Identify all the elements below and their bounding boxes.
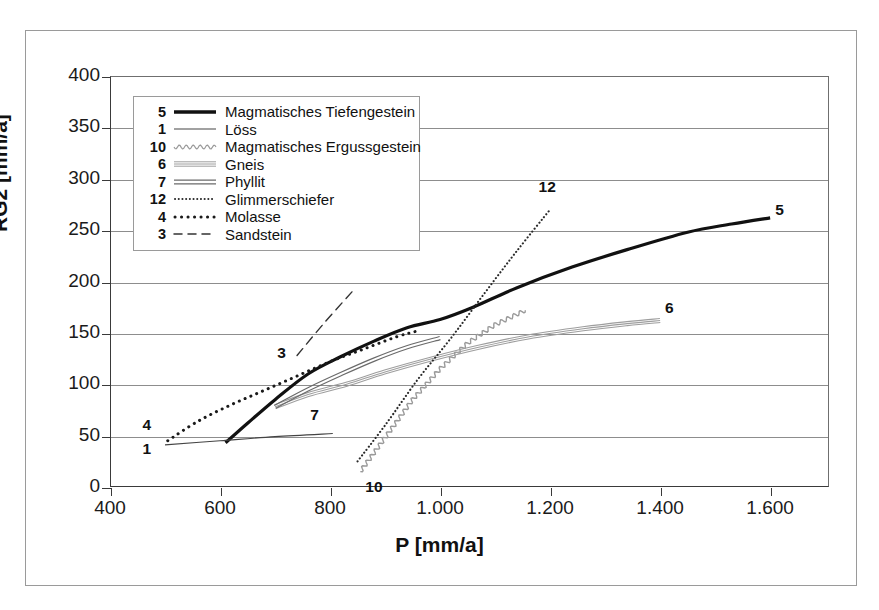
y-axis-tick-label: 200 — [42, 270, 100, 292]
x-axis-tick — [221, 488, 222, 496]
curve-label-6: 6 — [665, 299, 674, 317]
legend-swatch-6 — [173, 157, 217, 171]
legend-swatch-4 — [173, 210, 217, 224]
x-axis-tick — [661, 488, 662, 496]
series-6 — [274, 319, 660, 409]
curve-label-10: 10 — [365, 478, 382, 496]
y-axis-tick-label: 300 — [42, 167, 100, 189]
series-line-1 — [165, 434, 333, 445]
series-1 — [165, 434, 333, 445]
y-axis-tick-label: 0 — [42, 475, 100, 497]
x-axis-tick-label: 1.600 — [730, 497, 810, 519]
legend-key-5: 5 — [140, 104, 173, 120]
x-axis-tick-label: 1.200 — [510, 497, 590, 519]
legend-key-6: 6 — [140, 156, 173, 172]
series-5 — [226, 218, 771, 443]
legend-label-7: Phyllit — [225, 173, 265, 190]
legend-label-10: Magmatisches Ergussgestein — [225, 138, 421, 155]
x-axis-tick-label: 400 — [70, 497, 150, 519]
legend-key-3: 3 — [140, 226, 173, 242]
series-line-3 — [297, 292, 352, 356]
y-axis-tick-label: 50 — [42, 424, 100, 446]
series-line-6 — [276, 323, 661, 409]
y-axis-tick — [102, 488, 111, 489]
x-axis-tick-label: 1.000 — [400, 497, 480, 519]
y-axis-title: RG2 [mm/a] — [0, 114, 12, 232]
legend-key-4: 4 — [140, 209, 173, 225]
x-axis-title: P [mm/a] — [0, 533, 879, 557]
x-axis-tick-label: 1.400 — [620, 497, 700, 519]
legend-item-1: 1Löss — [140, 121, 411, 139]
legend-swatch-1 — [173, 122, 217, 136]
legend-item-7: 7Phyllit — [140, 173, 411, 191]
legend-swatch-7 — [173, 175, 217, 189]
legend-key-10: 10 — [140, 139, 173, 155]
series-line-10 — [360, 310, 525, 471]
legend-line-10 — [174, 145, 216, 149]
x-axis-tick — [551, 488, 552, 496]
series-10 — [360, 310, 525, 471]
legend-key-12: 12 — [140, 191, 173, 207]
y-axis-tick-label: 350 — [42, 115, 100, 137]
x-axis-tick-label: 800 — [290, 497, 370, 519]
legend-label-5: Magmatisches Tiefengestein — [225, 103, 415, 120]
legend-item-4: 4Molasse — [140, 208, 411, 226]
legend-item-10: 10Magmatisches Ergussgestein — [140, 138, 411, 156]
series-3 — [297, 292, 352, 356]
legend-swatch-10 — [173, 140, 217, 154]
curve-label-4: 4 — [143, 416, 152, 434]
x-axis-tick — [111, 488, 112, 496]
legend-label-12: Glimmerschiefer — [225, 191, 334, 208]
legend-label-1: Löss — [225, 121, 257, 138]
legend-item-5: 5Magmatisches Tiefengestein — [140, 103, 411, 121]
legend-item-12: 12Glimmerschiefer — [140, 191, 411, 209]
x-axis-tick — [331, 488, 332, 496]
legend-label-4: Molasse — [225, 208, 281, 225]
y-axis-tick-label: 100 — [42, 372, 100, 394]
x-axis-tick — [441, 488, 442, 496]
curve-label-3: 3 — [277, 344, 286, 362]
legend-swatch-12 — [173, 192, 217, 206]
legend-key-1: 1 — [140, 121, 173, 137]
y-axis-tick-label: 400 — [42, 64, 100, 86]
y-axis-tick-label: 150 — [42, 321, 100, 343]
curve-label-1: 1 — [143, 440, 152, 458]
y-axis-tick-label: 250 — [42, 218, 100, 240]
legend-item-3: 3Sandstein — [140, 226, 411, 244]
x-axis-tick-label: 600 — [180, 497, 260, 519]
legend-swatch-3 — [173, 227, 217, 241]
legend-key-7: 7 — [140, 174, 173, 190]
legend-swatch-5 — [173, 105, 217, 119]
legend-item-6: 6Gneis — [140, 156, 411, 174]
chart-legend: 5Magmatisches Tiefengestein1Löss10Magmat… — [133, 96, 420, 251]
series-line-6 — [275, 321, 660, 407]
legend-label-6: Gneis — [225, 156, 264, 173]
x-axis-tick — [771, 488, 772, 496]
chart-figure: RG2 [mm/a] 050100150200250300350400 5110… — [0, 0, 879, 610]
curve-label-5: 5 — [775, 201, 784, 219]
legend-label-3: Sandstein — [225, 226, 292, 243]
curve-label-7: 7 — [310, 406, 319, 424]
series-line-5 — [226, 218, 771, 443]
curve-label-12: 12 — [539, 178, 556, 196]
